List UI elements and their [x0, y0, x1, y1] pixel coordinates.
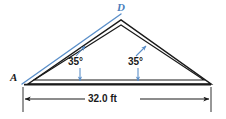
segment-ad-blue	[22, 14, 121, 84]
truss-outer-outline	[28, 20, 211, 84]
geometry-figure: D A 35° 35° 32.0 ft	[0, 0, 226, 119]
angle-label-left: 35°	[68, 57, 83, 67]
vertex-label-a: A	[10, 72, 17, 83]
dimension-label-base: 32.0 ft	[85, 94, 120, 104]
angle-right-arrow-up	[136, 46, 146, 56]
vertex-label-d: D	[117, 2, 125, 13]
truss-inner-outline	[34, 25, 204, 80]
angle-label-right: 35°	[128, 57, 143, 67]
